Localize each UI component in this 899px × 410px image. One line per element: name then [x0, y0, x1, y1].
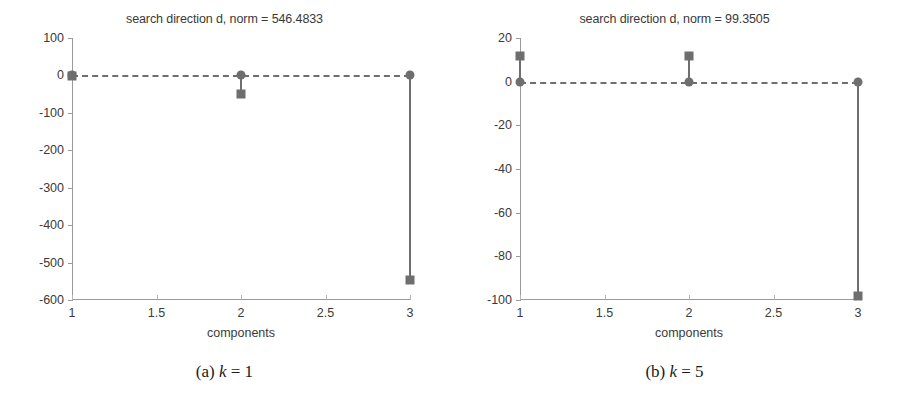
stem-value-marker	[406, 275, 415, 284]
caption-index-a: (a)	[196, 362, 215, 381]
x-tick-mark	[72, 295, 73, 300]
x-tick-label: 1.5	[596, 306, 613, 320]
x-tick-mark	[326, 295, 327, 300]
stem-value-marker	[516, 51, 525, 60]
x-tick-label: 2.5	[317, 306, 334, 320]
y-tick-mark	[68, 188, 73, 189]
x-tick-label: 1.5	[148, 306, 165, 320]
y-tick-label: -100	[487, 293, 512, 307]
y-tick-mark	[516, 169, 521, 170]
x-tick-mark	[689, 295, 690, 300]
y-tick-label: -20	[494, 118, 512, 132]
caption-value-b: = 5	[681, 362, 703, 381]
x-tick-label: 3	[407, 306, 414, 320]
x-tick-label: 1	[517, 306, 524, 320]
stem-value-marker	[685, 51, 694, 60]
stem-value-marker	[237, 90, 246, 99]
y-tick-mark	[68, 300, 73, 301]
plot-axes-b: 200-20-40-60-80-100 11.522.53 components	[520, 38, 858, 300]
caption-value-a: = 1	[231, 362, 253, 381]
plot-axes-a: 1000-100-200-300-400-500-600 11.522.53 c…	[72, 38, 410, 300]
x-tick-label: 2.5	[765, 306, 782, 320]
x-tick-mark	[241, 295, 242, 300]
stem-line	[409, 75, 411, 280]
subfigure-caption-a: (a) k = 1	[0, 362, 449, 382]
y-tick-label: -300	[39, 181, 64, 195]
x-axis-label-b: components	[520, 326, 858, 340]
y-tick-mark	[516, 300, 521, 301]
x-tick-mark	[605, 295, 606, 300]
stem-base-marker	[237, 71, 246, 80]
y-tick-label: -60	[494, 206, 512, 220]
stem-base-marker	[516, 77, 525, 86]
x-tick-label: 1	[69, 306, 76, 320]
y-tick-mark	[516, 125, 521, 126]
stem-base-marker	[406, 71, 415, 80]
y-tick-mark	[68, 150, 73, 151]
y-tick-mark	[68, 113, 73, 114]
y-tick-mark	[516, 213, 521, 214]
caption-variable-a: k	[219, 362, 227, 381]
y-tick-label: 20	[498, 31, 512, 45]
x-axis-label-a: components	[72, 326, 410, 340]
caption-index-b: (b)	[645, 362, 665, 381]
subfigure-b: search direction d, norm = 99.3505 200-2…	[450, 0, 899, 410]
subfigure-a: search direction d, norm = 546.4833 1000…	[0, 0, 449, 410]
plot-title-a: search direction d, norm = 546.4833	[0, 12, 449, 26]
y-tick-label: -100	[39, 106, 64, 120]
caption-variable-b: k	[669, 362, 677, 381]
subfigure-caption-b: (b) k = 5	[450, 362, 899, 382]
x-tick-label: 3	[855, 306, 862, 320]
y-tick-label: 0	[505, 75, 512, 89]
stem-base-marker	[854, 77, 863, 86]
stem-value-marker	[854, 291, 863, 300]
y-tick-label: 100	[43, 31, 64, 45]
x-tick-label: 2	[238, 306, 245, 320]
stem-value-marker	[68, 71, 77, 80]
stem-line	[857, 82, 859, 296]
x-tick-mark	[520, 295, 521, 300]
y-tick-label: -200	[39, 143, 64, 157]
x-tick-mark	[774, 295, 775, 300]
x-tick-mark	[410, 295, 411, 300]
y-tick-label: -500	[39, 256, 64, 270]
stem-base-marker	[685, 77, 694, 86]
y-tick-label: 0	[57, 68, 64, 82]
y-tick-label: -40	[494, 162, 512, 176]
y-tick-label: -80	[494, 249, 512, 263]
y-tick-mark	[516, 256, 521, 257]
y-tick-label: -600	[39, 293, 64, 307]
y-tick-label: -400	[39, 218, 64, 232]
plot-title-b: search direction d, norm = 99.3505	[450, 12, 899, 26]
figure-root: search direction d, norm = 546.4833 1000…	[0, 0, 899, 410]
x-tick-mark	[157, 295, 158, 300]
y-tick-mark	[68, 38, 73, 39]
y-tick-mark	[68, 263, 73, 264]
y-tick-mark	[68, 225, 73, 226]
x-tick-label: 2	[686, 306, 693, 320]
y-tick-mark	[516, 38, 521, 39]
